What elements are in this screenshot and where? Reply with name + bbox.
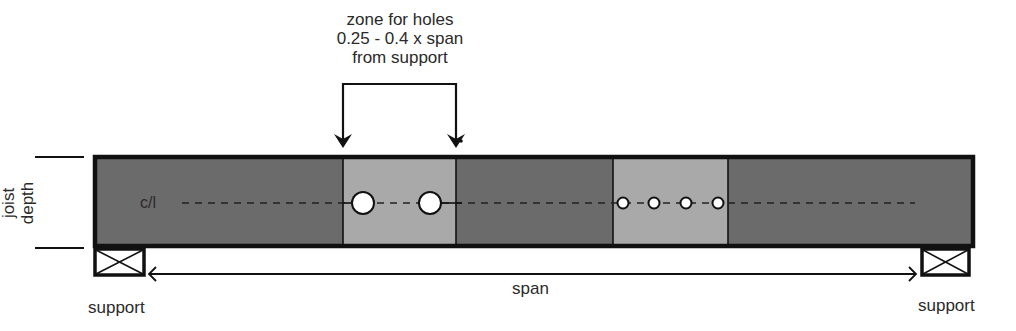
depth-dimension: [35, 157, 84, 248]
hole-small: [618, 198, 629, 209]
joist-body: [95, 157, 973, 246]
hole-zone-caption: zone for holes 0.25 - 0.4 x span from su…: [300, 10, 500, 67]
support-right-label: support: [918, 297, 975, 314]
support-left-box: [95, 249, 144, 275]
zone-bracket: [343, 84, 456, 140]
hole-zone-right: [613, 157, 728, 246]
joist-depth-label: joist depth: [0, 182, 37, 225]
support-right-box: [922, 249, 969, 275]
hole-small: [713, 198, 724, 209]
hole-small: [649, 198, 660, 209]
caption-line-1: zone for holes: [300, 10, 500, 29]
hole-small: [681, 198, 692, 209]
depth-label-line-1: joist: [0, 182, 18, 225]
depth-label-line-2: depth: [18, 182, 37, 225]
span-label: span: [512, 280, 549, 297]
support-left-label: support: [88, 299, 145, 316]
artifact-dot: [459, 139, 463, 143]
hole-large: [352, 192, 374, 214]
caption-line-2: 0.25 - 0.4 x span: [300, 29, 500, 48]
caption-line-3: from support: [300, 48, 500, 67]
centerline-label: c/l: [140, 195, 156, 211]
hole-large: [419, 192, 441, 214]
joist-diagram: [0, 0, 1016, 331]
